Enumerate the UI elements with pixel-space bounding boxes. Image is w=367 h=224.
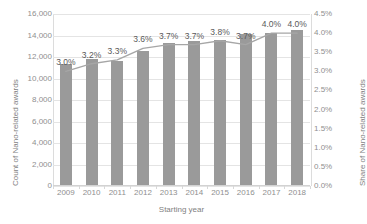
y-axis-right-ticks: 0.0%0.5%1.0%1.5%2.0%2.5%3.0%3.5%4.0%4.5%: [314, 0, 360, 224]
y-axis-right-tick: 4.0%: [314, 29, 354, 37]
y-axis-right-tick: 2.0%: [314, 106, 354, 114]
data-label: 4.0%: [282, 19, 312, 29]
y-axis-right-tick: 2.5%: [314, 86, 354, 94]
y-axis-right-tick: 0.0%: [314, 182, 354, 190]
y-axis-left-tick: 4,000: [6, 139, 52, 147]
y-axis-left-tick: 2,000: [6, 161, 52, 169]
y-axis-right-tick: 1.0%: [314, 144, 354, 152]
x-axis-title: Starting year: [0, 205, 363, 214]
bar: [265, 33, 277, 186]
y-axis-left-tick: 8,000: [6, 96, 52, 104]
y-axis-left-tick: 14,000: [6, 32, 52, 40]
y-axis-left-tick: 6,000: [6, 118, 52, 126]
y-axis-left-tick: 0: [6, 182, 52, 190]
data-label: 3.3%: [102, 46, 132, 56]
y-axis-right-tick: 1.5%: [314, 125, 354, 133]
bar: [86, 59, 98, 186]
x-axis-category: 2018: [282, 188, 312, 197]
gridline: [53, 14, 310, 15]
y-axis-right-tick: 3.0%: [314, 67, 354, 75]
y-axis-left-tick: 10,000: [6, 75, 52, 83]
bar: [163, 43, 175, 187]
data-label: 3.7%: [231, 31, 261, 41]
bar: [240, 34, 252, 186]
y-axis-left-ticks: 02,0004,0006,0008,00010,00012,00014,0001…: [0, 0, 52, 224]
bar: [137, 51, 149, 186]
bar: [111, 61, 123, 186]
bar: [291, 30, 303, 186]
y-axis-left-tick: 16,000: [6, 10, 52, 18]
y-axis-right-tick: 3.5%: [314, 48, 354, 56]
bar: [188, 41, 200, 186]
y-axis-right-tick: 0.5%: [314, 163, 354, 171]
y-axis-right-tick: 4.5%: [314, 10, 354, 18]
bar: [60, 64, 72, 186]
bar: [214, 40, 226, 186]
y-axis-left-tick: 12,000: [6, 53, 52, 61]
